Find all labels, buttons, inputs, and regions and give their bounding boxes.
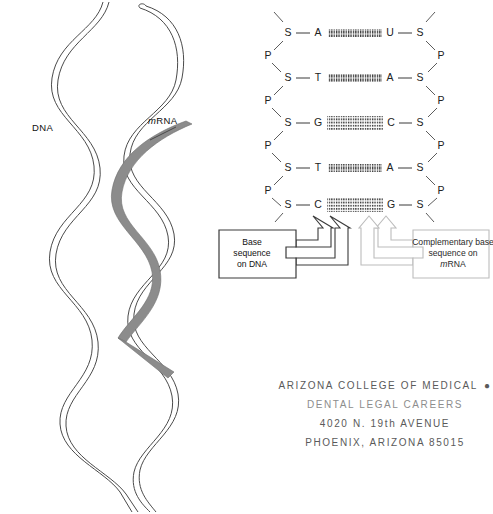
sugar-left-4: S	[284, 161, 291, 173]
backbone-stub-right-5	[426, 213, 434, 222]
phosphate-right-1: P	[437, 49, 444, 61]
sugar-right-4: S	[416, 161, 423, 173]
stamp-line-3: 4020 N. 19th AVENUE	[320, 418, 450, 429]
phosphate-right-3: P	[437, 139, 444, 151]
mrna-label: mRNA	[148, 115, 178, 126]
sugar-left-2: S	[284, 71, 291, 83]
phosphate-right-2: P	[437, 94, 444, 106]
sugar-left-5: S	[284, 198, 291, 210]
phosphate-left-4: P	[264, 184, 271, 196]
backbone-l2a	[274, 86, 283, 95]
base-left-4: T	[315, 161, 322, 173]
dna-callout-line-1: Base	[242, 237, 262, 247]
ladder-rung-2: S T A S	[284, 71, 423, 83]
ladder-rung-5: S C G S	[275, 198, 434, 222]
backbone-r1b	[428, 63, 437, 72]
backbone-stub-left-5	[275, 213, 283, 222]
hydrogen-bond-2	[328, 74, 382, 82]
base-right-1: U	[386, 26, 394, 38]
mrna-callout-line-3: mRNA	[440, 259, 466, 269]
address-stamp: ARIZONA COLLEGE OF MEDICAL● DENTAL LEGAL…	[278, 380, 491, 448]
backbone-r3a	[426, 131, 435, 140]
phosphate-right-4: P	[437, 184, 444, 196]
backbone-l4a	[274, 176, 283, 185]
base-left-2: T	[315, 71, 322, 83]
backbone-r1a	[426, 41, 435, 50]
dna-callout-line-3: on DNA	[237, 259, 267, 269]
dna-callout-arrow-left	[296, 216, 333, 247]
backbone-r3b	[428, 153, 437, 162]
sugar-right-1: S	[416, 26, 423, 38]
sugar-left-1: S	[284, 26, 291, 38]
mrna-callout-arrow-right	[376, 216, 413, 247]
dna-helix-illustration: DNA mRNA	[32, 2, 192, 512]
dna-callout-line-2: sequence	[233, 248, 270, 258]
hydrogen-bond-5	[327, 198, 383, 212]
sugar-right-2: S	[416, 71, 423, 83]
backbone-l3a	[274, 131, 283, 140]
stamp-line-2: DENTAL LEGAL CAREERS	[307, 399, 463, 410]
mrna-callout-line-1: Complementary base	[412, 237, 493, 247]
backbone-r2b	[428, 108, 437, 117]
dna-callout: Base sequence on DNA	[219, 216, 350, 278]
hydrogen-bond-1	[328, 29, 382, 37]
backbone-l4b	[272, 198, 281, 206]
backbone-stub-right-1	[426, 12, 435, 22]
phosphate-left-2: P	[264, 94, 271, 106]
base-right-2: A	[386, 71, 393, 83]
helix-top-loop	[139, 4, 146, 8]
sugar-right-5: S	[416, 198, 423, 210]
mrna-label-rest: RNA	[156, 115, 178, 126]
backbone-l2b	[272, 108, 281, 117]
base-left-3: G	[314, 116, 322, 128]
mrna-callout-line-2: sequence on	[428, 248, 477, 258]
mrna-callout-line-3-rest: RNA	[448, 259, 466, 269]
dna-strand-left	[49, 2, 138, 512]
base-right-3: C	[387, 116, 395, 128]
base-left-1: A	[314, 26, 321, 38]
dna-label: DNA	[32, 122, 54, 133]
backbone-r4a	[426, 176, 435, 185]
phosphate-left-3: P	[264, 139, 271, 151]
ladder-rung-4: S T A S	[284, 161, 423, 173]
mrna-callout-line-3-prefix: m	[440, 259, 447, 269]
base-right-4: A	[386, 161, 393, 173]
hydrogen-bond-3	[327, 116, 383, 130]
backbone-l1b	[272, 63, 281, 72]
stamp-bullet-1: ●	[484, 380, 492, 391]
base-left-5: C	[314, 198, 322, 210]
backbone-r2a	[426, 86, 435, 95]
backbone-stub-left-1	[274, 12, 283, 22]
sugar-right-3: S	[416, 116, 423, 128]
stamp-line-4: PHOENIX, ARIZONA 85015	[305, 437, 465, 448]
ladder-rung-3: S G C S	[284, 116, 423, 130]
stamp-line-1: ARIZONA COLLEGE OF MEDICAL●	[278, 380, 491, 391]
mrna-callout: Complementary base sequence on mRNA	[359, 216, 493, 278]
mrna-label-prefix: m	[148, 115, 156, 126]
dna-transcription-figure: DNA mRNA S A U S P P S T	[0, 0, 493, 514]
backbone-r4b	[428, 198, 437, 206]
phosphate-left-1: P	[264, 49, 271, 61]
base-pair-ladder: S A U S P P S T A S P P	[264, 12, 444, 222]
hydrogen-bond-4	[328, 164, 382, 172]
sugar-left-3: S	[284, 116, 291, 128]
backbone-l3b	[272, 153, 281, 162]
base-right-5: G	[387, 198, 395, 210]
ladder-rung-1: S A U S	[274, 12, 435, 38]
backbone-l1a	[274, 41, 283, 50]
